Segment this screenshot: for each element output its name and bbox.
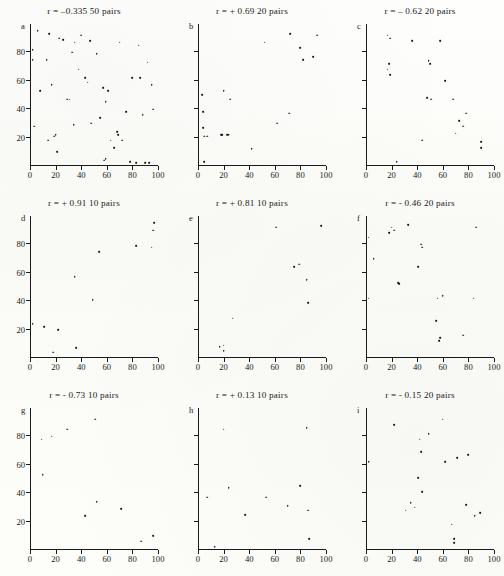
data-point bbox=[147, 62, 149, 64]
plot-area-d: d20406080020406080100 bbox=[30, 216, 158, 358]
data-point bbox=[437, 298, 439, 300]
y-tick-g-40 bbox=[26, 492, 30, 493]
y-tick-label-d-20: 20 bbox=[16, 325, 25, 335]
data-point bbox=[389, 37, 391, 39]
data-point bbox=[47, 140, 49, 142]
data-point bbox=[46, 59, 48, 61]
x-tick-label-i-100: 100 bbox=[488, 554, 501, 564]
data-point bbox=[84, 515, 86, 517]
scatter-panel-c: r = – 0.62 20 pairsc020406080100 bbox=[336, 0, 504, 192]
scatter-panel-a: r = –0.335 50 pairsa20406080020406080100 bbox=[0, 0, 168, 192]
data-point bbox=[152, 229, 154, 231]
data-point bbox=[397, 282, 399, 284]
data-point bbox=[414, 507, 416, 509]
y-tick-label-a-20: 20 bbox=[16, 133, 25, 143]
data-point bbox=[451, 524, 453, 526]
data-point bbox=[55, 134, 57, 136]
x-tick-label-d-80: 80 bbox=[128, 362, 137, 372]
data-point bbox=[306, 427, 308, 429]
x-tick-label-g-80: 80 bbox=[128, 554, 137, 564]
data-point bbox=[152, 108, 154, 110]
data-point bbox=[418, 266, 420, 268]
data-point bbox=[439, 40, 441, 42]
data-point bbox=[89, 40, 91, 42]
data-point bbox=[428, 60, 430, 62]
data-point bbox=[277, 123, 279, 125]
data-point bbox=[393, 229, 395, 231]
y-tick-g-80 bbox=[26, 435, 30, 436]
y-tick-a-60 bbox=[26, 80, 30, 81]
y-tick-label-g-60: 60 bbox=[16, 460, 25, 470]
y-axis-line-a bbox=[30, 24, 31, 166]
data-point bbox=[202, 111, 204, 113]
data-point bbox=[78, 69, 80, 71]
data-point bbox=[232, 317, 234, 319]
data-point bbox=[75, 347, 77, 349]
y-tick-c-60 bbox=[362, 80, 366, 81]
data-point bbox=[445, 80, 447, 82]
x-tick-label-g-20: 20 bbox=[51, 554, 60, 564]
data-point bbox=[229, 98, 231, 100]
data-point bbox=[421, 140, 423, 142]
x-tick-label-f-40: 40 bbox=[413, 362, 422, 372]
data-point bbox=[51, 436, 53, 438]
data-point bbox=[411, 40, 413, 42]
data-point bbox=[442, 295, 444, 297]
x-axis-line-e bbox=[198, 357, 326, 358]
x-tick-label-i-60: 60 bbox=[439, 554, 448, 564]
data-point bbox=[102, 87, 104, 89]
data-point bbox=[42, 474, 44, 476]
y-axis-line-i bbox=[366, 408, 367, 550]
y-tick-e-80 bbox=[194, 243, 198, 244]
data-point bbox=[428, 433, 430, 435]
data-point bbox=[110, 140, 112, 142]
data-point bbox=[445, 461, 447, 463]
data-point bbox=[59, 37, 61, 39]
plot-area-e: e020406080100 bbox=[198, 216, 326, 358]
x-tick-label-f-60: 60 bbox=[439, 362, 448, 372]
panel-title-b: r = + 0.69 20 pairs bbox=[168, 6, 336, 16]
x-tick-label-g-60: 60 bbox=[103, 554, 112, 564]
data-point bbox=[32, 49, 34, 51]
data-point bbox=[387, 69, 389, 71]
y-tick-a-40 bbox=[26, 108, 30, 109]
x-tick-label-c-0: 0 bbox=[364, 170, 368, 180]
x-tick-label-a-20: 20 bbox=[51, 170, 60, 180]
y-tick-e-20 bbox=[194, 329, 198, 330]
data-point bbox=[125, 111, 127, 113]
y-tick-label-g-40: 40 bbox=[16, 488, 25, 498]
y-tick-e-40 bbox=[194, 300, 198, 301]
panel-letter-c: c bbox=[357, 21, 361, 31]
x-tick-label-h-20: 20 bbox=[219, 554, 228, 564]
data-point bbox=[418, 477, 420, 479]
x-tick-label-h-60: 60 bbox=[271, 554, 280, 564]
data-point bbox=[39, 90, 41, 92]
y-axis-line-h bbox=[198, 408, 199, 550]
data-point bbox=[204, 161, 206, 163]
scatter-panel-e: r = + 0.81 10 pairse020406080100 bbox=[168, 192, 336, 384]
data-point bbox=[138, 44, 140, 46]
y-tick-i-20 bbox=[362, 521, 366, 522]
y-axis-line-c bbox=[366, 24, 367, 166]
x-tick-label-h-80: 80 bbox=[296, 554, 305, 564]
x-axis-line-b bbox=[198, 165, 326, 166]
data-point bbox=[98, 251, 100, 253]
data-point bbox=[132, 77, 134, 79]
data-point bbox=[368, 461, 370, 463]
panel-title-a: r = –0.335 50 pairs bbox=[0, 6, 168, 16]
data-point bbox=[420, 451, 422, 453]
scatter-panel-h: r = + 0.13 10 pairsh020406080100 bbox=[168, 384, 336, 576]
panel-letter-g: g bbox=[21, 405, 25, 415]
data-point bbox=[300, 485, 302, 487]
data-point bbox=[275, 227, 277, 229]
data-point bbox=[52, 351, 54, 353]
x-tick-label-h-100: 100 bbox=[320, 554, 333, 564]
x-tick-label-a-80: 80 bbox=[128, 170, 137, 180]
data-point bbox=[71, 52, 73, 54]
x-tick-label-i-20: 20 bbox=[387, 554, 396, 564]
data-point bbox=[316, 35, 318, 37]
x-tick-label-b-100: 100 bbox=[320, 170, 333, 180]
data-point bbox=[206, 497, 208, 499]
data-point bbox=[452, 98, 454, 100]
scatter-panel-b: r = + 0.69 20 pairsb020406080100 bbox=[168, 0, 336, 192]
